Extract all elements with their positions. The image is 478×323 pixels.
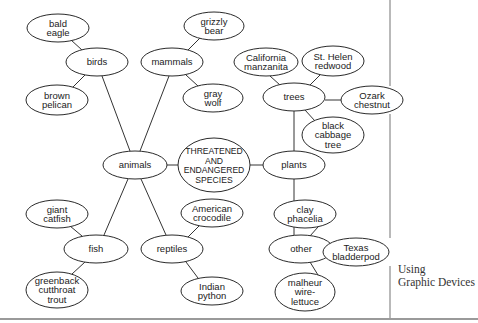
node-brown-pelican: brownpelican — [26, 85, 88, 115]
node-label: animals — [119, 159, 152, 170]
edge-reptiles-american-crocodile — [188, 226, 199, 237]
node-label: trees — [283, 91, 304, 102]
edge-fish-giant-catfish — [70, 226, 82, 236]
node-mammals: mammals — [141, 48, 203, 76]
node-american-crocodile: Americancrocodile — [181, 199, 243, 227]
node-label: wolf — [204, 97, 222, 108]
edge-birds-brown-pelican — [73, 75, 85, 87]
edge-mammals-gray-wolf — [186, 75, 198, 86]
node-label: python — [198, 290, 227, 301]
node-st-helen-redwood: St. Helenredwood — [302, 46, 364, 76]
node-plants: plants — [263, 151, 325, 179]
node-center: THREATENEDANDENDANGEREDSPECIES — [178, 138, 250, 192]
node-malheur-wire-lettuce: malheurwire-lettuce — [275, 273, 335, 311]
caption-line-1: Using — [398, 263, 475, 276]
node-birds: birds — [66, 48, 128, 76]
node-indian-python: Indianpython — [181, 277, 243, 305]
node-label: crocodile — [193, 212, 231, 223]
node-gray-wolf: graywolf — [183, 84, 243, 112]
edge-animals-reptiles — [141, 179, 166, 235]
edge-mammals-grizzly-bear — [188, 38, 200, 50]
edge-fish-greenback-cutthroat-trout — [72, 262, 85, 274]
node-label: eagle — [46, 27, 69, 38]
node-label: bladderpod — [332, 251, 380, 262]
node-label: bear — [204, 25, 223, 36]
node-label: catfish — [43, 213, 70, 224]
node-label: tree — [325, 139, 341, 150]
edge-other-clay-phacelia — [310, 227, 318, 236]
node-label: manzanita — [244, 61, 289, 72]
node-label: trout — [47, 294, 66, 305]
node-label: ENDANGERED — [184, 165, 245, 175]
central-topic-node: THREATENEDANDENDANGEREDSPECIES — [178, 138, 250, 192]
node-ozark-chestnut: Ozarkchestnut — [341, 86, 403, 114]
node-grizzly-bear: grizzlybear — [184, 12, 244, 40]
edge-animals-birds — [102, 76, 130, 151]
edge-animals-fish — [104, 179, 128, 235]
node-label: reptiles — [157, 243, 188, 254]
node-black-cabbage-tree: blackcabbagetree — [302, 117, 364, 153]
node-label: lettuce — [291, 296, 319, 307]
node-label: THREATENED — [185, 146, 243, 156]
edge-trees-st-helen-redwood — [310, 75, 320, 85]
node-label: mammals — [151, 56, 192, 67]
node-california-manzanita: Californiamanzanita — [234, 48, 298, 76]
node-label: other — [290, 243, 312, 254]
edge-trees-black-cabbage-tree — [305, 110, 315, 121]
node-label: pelican — [42, 99, 72, 110]
edge-reptiles-indian-python — [186, 262, 198, 278]
node-label: chestnut — [354, 99, 390, 110]
node-label: birds — [87, 56, 108, 67]
node-greenback-cutthroat-trout: greenbackcutthroattrout — [26, 272, 88, 308]
node-reptiles: reptiles — [141, 235, 203, 263]
node-fish: fish — [64, 235, 128, 263]
node-label: plants — [281, 159, 307, 170]
node-label: phacelia — [287, 213, 323, 224]
node-trees: trees — [263, 83, 325, 111]
edge-trees-california-manzanita — [270, 76, 280, 85]
node-label: redwood — [315, 60, 351, 71]
node-bald-eagle: baldeagle — [27, 14, 89, 42]
node-texas-bladderpod: Texasbladderpod — [323, 238, 389, 266]
node-label: AND — [205, 156, 223, 166]
caption-line-2: Graphic Devices — [398, 276, 475, 289]
node-label: SPECIES — [195, 175, 233, 185]
edge-animals-mammals — [140, 76, 169, 151]
edge-birds-bald-eagle — [71, 40, 82, 50]
node-label: fish — [89, 243, 104, 254]
node-animals: animals — [103, 151, 167, 179]
node-clay-phacelia: clayphacelia — [274, 200, 336, 228]
margin-caption: Using Graphic Devices — [398, 263, 475, 289]
node-giant-catfish: giantcatfish — [26, 200, 88, 228]
